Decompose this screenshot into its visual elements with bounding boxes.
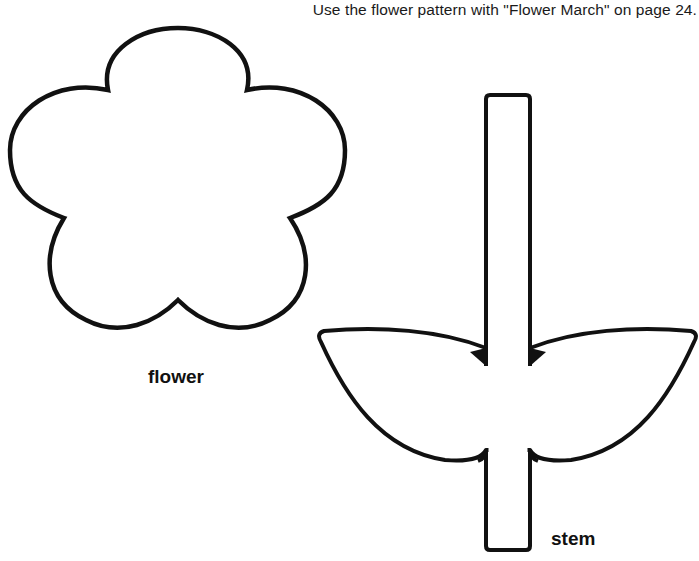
pattern-canvas [0, 0, 699, 561]
stem-pattern-icon [319, 95, 696, 550]
stem-label: stem [551, 528, 595, 550]
flower-pattern-icon [10, 28, 345, 328]
flower-label: flower [148, 366, 204, 388]
